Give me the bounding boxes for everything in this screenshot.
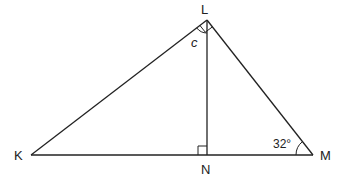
right-angle-marker-l	[200, 25, 213, 32]
triangle-diagram: L K M N c 32°	[0, 0, 345, 184]
right-angle-marker-n	[198, 146, 207, 155]
side-lm	[207, 20, 313, 155]
triangle-figure	[0, 0, 345, 184]
vertex-label-l: L	[201, 3, 208, 16]
angle-label-32: 32°	[273, 138, 291, 150]
vertex-label-k: K	[14, 149, 23, 162]
vertex-label-m: M	[320, 149, 331, 162]
vertex-label-n: N	[201, 163, 210, 176]
angle-label-c: c	[191, 36, 198, 49]
side-kl	[31, 20, 207, 155]
angle-arc-m	[296, 142, 303, 155]
